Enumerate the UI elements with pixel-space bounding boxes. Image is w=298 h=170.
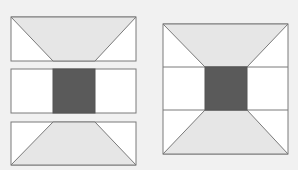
bottom-strip: [11, 122, 136, 165]
assembled-square: [163, 24, 288, 154]
top-strip: [11, 17, 136, 61]
middle-strip: [11, 69, 136, 113]
diagram-canvas: [0, 0, 298, 170]
middle-strip-center-square: [53, 69, 95, 113]
assembled-center-square: [205, 67, 247, 110]
